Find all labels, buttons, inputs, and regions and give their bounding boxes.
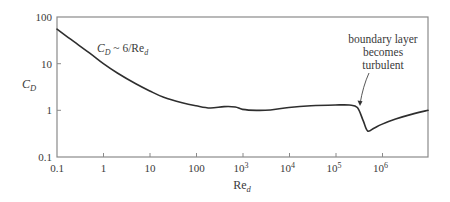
x-tick-1: 1 bbox=[101, 162, 107, 174]
x-tick-100: 100 bbox=[188, 162, 205, 174]
y-tick-10: 10 bbox=[41, 58, 53, 70]
x-axis bbox=[104, 153, 383, 157]
x-tick-1e5: 105 bbox=[327, 161, 342, 174]
x-tick-1e6: 106 bbox=[373, 161, 388, 174]
y-axis-title: CD bbox=[22, 77, 37, 93]
x-tick-1e4: 104 bbox=[280, 161, 295, 174]
annotation-line-1: boundary layer bbox=[348, 33, 417, 46]
y-tick-1: 1 bbox=[47, 104, 53, 116]
arrowhead-icon bbox=[358, 101, 363, 107]
x-tick-0-1: 0.1 bbox=[50, 162, 64, 174]
x-tick-10: 10 bbox=[145, 162, 157, 174]
annotation-line-2: becomes bbox=[363, 46, 404, 58]
transition-annotation: boundary layer becomes turbulent bbox=[348, 33, 417, 71]
x-axis-title: Red bbox=[233, 178, 251, 194]
stokes-law-annotation: CD ~ 6/Red bbox=[97, 42, 149, 57]
x-tick-1e3: 103 bbox=[234, 161, 249, 174]
y-tick-labels: 100 10 1 0.1 bbox=[36, 11, 53, 163]
y-tick-100: 100 bbox=[36, 11, 53, 23]
x-tick-labels: 0.1 1 10 100 103 104 105 106 bbox=[50, 161, 388, 174]
annotation-line-3: turbulent bbox=[362, 59, 404, 71]
drag-coefficient-chart: 100 10 1 0.1 0.1 1 10 100 103 104 105 10… bbox=[0, 0, 450, 202]
annotation-arrow bbox=[360, 73, 369, 104]
